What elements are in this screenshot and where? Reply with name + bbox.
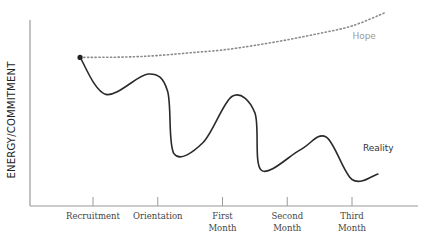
- hope-vs-reality-chart: ENERGY/COMMITMENT RecruitmentOrientation…: [0, 0, 430, 245]
- x-tick-label: Recruitment: [66, 211, 120, 221]
- x-tick-label: Month: [208, 223, 237, 233]
- x-tick-label: Month: [338, 223, 367, 233]
- x-tick-label: Third: [340, 211, 364, 221]
- axes: [30, 20, 418, 206]
- hope-series-label: Hope: [352, 31, 376, 41]
- x-tick-label: Second: [271, 211, 303, 221]
- x-tick-labels: RecruitmentOrientationFirstMonthSecondMo…: [66, 211, 367, 233]
- x-tick-label: First: [212, 211, 233, 221]
- x-tick-label: Orientation: [133, 211, 183, 221]
- reality-series-label: Reality: [363, 143, 394, 153]
- reality-series-line: [80, 57, 378, 181]
- x-ticks: [93, 197, 352, 206]
- y-axis-label: ENERGY/COMMITMENT: [6, 61, 17, 179]
- start-point-marker: [77, 55, 82, 60]
- hope-series-line: [80, 13, 384, 57]
- x-tick-label: Month: [273, 223, 302, 233]
